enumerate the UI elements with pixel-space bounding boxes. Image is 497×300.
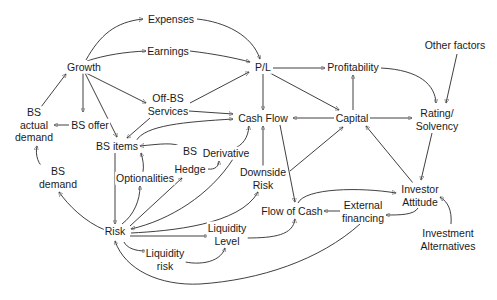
node-label: Rating/ [416, 107, 459, 120]
edge-investor-extfin [386, 208, 418, 215]
node-label: Downside [240, 166, 286, 179]
edge-bsitems-cashflow [136, 119, 233, 141]
node-label: Hedge [175, 163, 206, 176]
node-profitability: Profitability [326, 61, 379, 74]
node-downside-risk: DownsideRisk [239, 166, 287, 191]
node-bs-actual-demand: BSactualdemand [14, 106, 54, 144]
edge-offbs-cashflow [189, 111, 233, 114]
node-label: Investor [401, 183, 438, 196]
node-label: Investment [421, 227, 476, 240]
edge-earnings-pl [190, 51, 250, 62]
node-derivative: Derivative [202, 147, 251, 160]
node-label: Flow of Cash [261, 205, 322, 218]
edge-otherfactors-rating [446, 54, 457, 103]
node-liquidity-level: LiquidityLevel [207, 222, 248, 247]
edge-offbs-bsitems [127, 118, 150, 138]
node-label: actual [15, 119, 53, 132]
node-label: Attitude [401, 195, 438, 208]
node-label: financing [342, 211, 384, 224]
edge-growth-offbs [86, 73, 146, 103]
node-label: Profitability [327, 61, 378, 74]
node-label: Liquidity [208, 222, 247, 235]
node-label: Growth [67, 61, 101, 74]
node-label: Risk [240, 178, 286, 191]
node-label: Risk [105, 225, 125, 238]
edge-pl-capital [270, 73, 339, 110]
edge-hedge-derivative [208, 161, 219, 169]
node-bs-demand: BSdemand [38, 165, 78, 190]
node-label: demand [39, 177, 77, 190]
node-label: Capital [336, 112, 369, 125]
node-label: Solvency [416, 119, 459, 132]
node-label: Liquidity [146, 247, 185, 260]
causal-loop-diagram: Expenses Earnings Growth P/L Profitabili… [0, 0, 497, 300]
node-label: BS [15, 106, 53, 119]
edge-downside-capital [290, 127, 343, 171]
node-label: risk [146, 259, 185, 272]
node-label: Expenses [148, 13, 194, 26]
node-investment-alternatives: InvestmentAlternatives [420, 227, 477, 252]
node-label: Optionalities [116, 172, 174, 185]
node-other-factors: Other factors [424, 39, 487, 52]
node-label: Other factors [425, 39, 486, 52]
node-growth: Growth [66, 61, 102, 74]
node-label: P/L [255, 61, 271, 74]
edge-investor-capital [366, 126, 413, 183]
node-optionalities: Optionalities [115, 172, 175, 185]
node-rating-solvency: Rating/Solvency [415, 107, 460, 132]
edge-actualdemand-growth [41, 74, 66, 107]
edge-risk-bsdemand [59, 192, 105, 230]
node-liquidity-risk: Liquidityrisk [145, 247, 186, 272]
edge-rating-investor [421, 133, 432, 180]
node-label: External [342, 199, 384, 212]
node-label: Off-BS [148, 92, 188, 105]
edge-offbs-pl [190, 72, 249, 103]
node-label: Level [208, 234, 247, 247]
edge-risk-optionalities [122, 186, 140, 224]
node-cash-flow: Cash Flow [237, 112, 289, 125]
edge-derivative-cashflow [233, 126, 249, 149]
node-label: BS items [96, 140, 138, 153]
edge-risk-liquidityrisk [124, 242, 146, 251]
node-label: Cash Flow [238, 112, 288, 125]
node-label: BS offer [71, 119, 109, 132]
node-capital: Capital [335, 112, 370, 125]
node-risk: Risk [104, 225, 126, 238]
node-label: Earnings [147, 45, 188, 58]
node-bs-offer: BS offer [70, 119, 110, 132]
node-label: Alternatives [421, 239, 476, 252]
edge-liquiditylevel-flowofcash [246, 219, 295, 238]
node-investor-attitude: InvestorAttitude [400, 183, 439, 208]
node-label: BS [39, 165, 77, 178]
edge-investalt-investor [440, 197, 451, 224]
node-label: Services [148, 104, 188, 117]
edge-profitability-rating [381, 68, 436, 103]
edge-growth-earnings [87, 51, 146, 61]
node-pl: P/L [254, 61, 272, 74]
edge-optionalities-bsitems [141, 153, 143, 172]
node-label: demand [15, 131, 53, 144]
node-off-bs-services: Off-BSServices [147, 92, 189, 117]
node-bs-items: BS items [95, 140, 139, 153]
node-external-financing: Externalfinancing [341, 199, 385, 224]
node-label: Derivative [203, 147, 250, 160]
node-earnings: Earnings [146, 45, 189, 58]
node-expenses: Expenses [147, 13, 195, 26]
node-flow-of-cash: Flow of Cash [260, 205, 323, 218]
